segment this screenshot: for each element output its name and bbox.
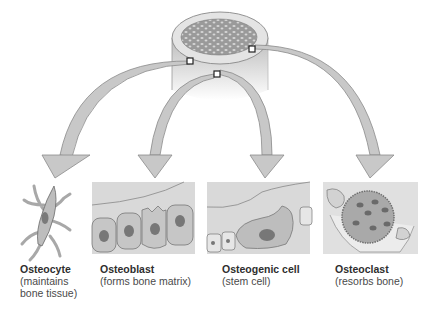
cell-desc-line-1: (maintains bbox=[20, 275, 77, 287]
label-osteogenic-cell: Osteogenic cell (stem cell) bbox=[222, 263, 300, 287]
cell-name: Osteoblast bbox=[100, 263, 191, 275]
osteoblast-illustration bbox=[92, 182, 195, 254]
label-osteoblast: Osteoblast (forms bone matrix) bbox=[100, 263, 191, 287]
cell-name: Osteocyte bbox=[20, 263, 77, 275]
arrow-to-osteoclast bbox=[255, 45, 380, 155]
label-osteoclast: Osteoclast (resorbs bone) bbox=[335, 263, 403, 287]
osteogenic-cell-illustration bbox=[207, 182, 312, 254]
osteoclast-illustration bbox=[323, 182, 418, 254]
cell-desc-line-1: (forms bone matrix) bbox=[100, 275, 191, 287]
label-osteocyte: Osteocyte (maintains bone tissue) bbox=[20, 263, 77, 299]
cell-desc-line-1: (stem cell) bbox=[222, 275, 300, 287]
cell-name: Osteogenic cell bbox=[222, 263, 300, 275]
cell-desc-line-1: (resorbs bone) bbox=[335, 275, 403, 287]
osteocyte-illustration bbox=[22, 186, 70, 260]
cell-name: Osteoclast bbox=[335, 263, 403, 275]
cell-desc-line-2: bone tissue) bbox=[20, 287, 77, 299]
